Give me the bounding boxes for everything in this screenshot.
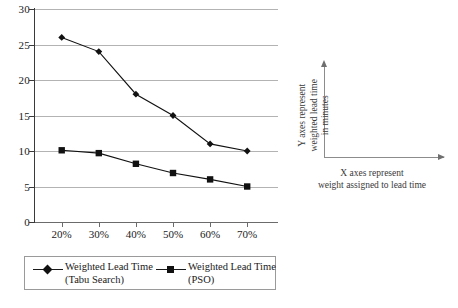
legend-label-line2: (PSO) — [188, 274, 214, 285]
arrow-up-icon — [321, 60, 327, 67]
y-tick-mark — [29, 116, 35, 117]
x-tick-label: 50% — [163, 228, 183, 240]
x-tick-label: 70% — [237, 228, 257, 240]
y-tick-mark — [29, 80, 35, 81]
legend-label-line1: Weighted Lead Time — [65, 261, 153, 272]
chart-legend: Weighted Lead Time (Tabu Search) Weighte… — [24, 256, 276, 290]
y-note-line3: in minutes — [320, 95, 330, 135]
data-point-diamond — [244, 148, 251, 155]
legend-label-tabu-search: Weighted Lead Time (Tabu Search) — [63, 261, 153, 286]
x-axis-line — [34, 222, 278, 223]
mini-axes: Y axes represent weighted lead time in m… — [286, 58, 458, 170]
mini-x-axis-label: X axes represent weight assigned to lead… — [286, 168, 458, 191]
data-point-square — [133, 161, 139, 167]
x-tick-label: 60% — [200, 228, 220, 240]
y-tick-mark — [29, 9, 35, 10]
series-line — [62, 37, 247, 151]
x-tick-mark — [173, 223, 174, 227]
y-note-line1: Y axes represent — [297, 84, 307, 147]
square-marker-icon — [156, 263, 186, 277]
legend-label-line2: (Tabu Search) — [65, 274, 124, 285]
y-tick-mark — [29, 45, 35, 46]
x-tick-label: 20% — [52, 228, 72, 240]
diamond-marker-icon — [33, 263, 63, 277]
x-tick-mark — [210, 223, 211, 227]
y-axis-tick-labels: 051015202530 — [0, 0, 30, 222]
x-note-line2: weight assigned to lead time — [318, 180, 426, 190]
arrow-right-icon — [438, 154, 445, 160]
line-chart-plot: 051015202530 20%30%40%50%60%70% — [0, 0, 278, 248]
data-point-square — [96, 150, 102, 156]
x-tick-mark — [247, 223, 248, 227]
legend-item-tabu-search: Weighted Lead Time (Tabu Search) — [33, 261, 153, 286]
x-note-line1: X axes represent — [340, 168, 403, 178]
y-tick-mark — [29, 222, 35, 223]
mini-x-axis — [324, 157, 444, 158]
data-point-square — [170, 170, 176, 176]
x-tick-mark — [62, 223, 63, 227]
x-tick-label: 40% — [126, 228, 146, 240]
legend-label-pso: Weighted Lead Time (PSO) — [186, 261, 276, 286]
y-tick-mark — [29, 151, 35, 152]
series-line — [62, 150, 247, 186]
chart-figure: 051015202530 20%30%40%50%60%70% Weighted… — [0, 0, 458, 308]
legend-item-pso: Weighted Lead Time (PSO) — [156, 261, 276, 286]
data-point-diamond — [58, 34, 65, 41]
data-point-square — [244, 183, 250, 189]
y-tick-mark — [29, 187, 35, 188]
mini-y-axis-label: Y axes represent weighted lead time in m… — [297, 69, 332, 161]
x-tick-mark — [136, 223, 137, 227]
legend-label-line1: Weighted Lead Time — [188, 261, 276, 272]
axis-explanation-diagram: Y axes represent weighted lead time in m… — [286, 58, 458, 208]
x-tick-mark — [99, 223, 100, 227]
series-layer — [35, 9, 278, 222]
data-point-square — [207, 176, 213, 182]
x-tick-label: 30% — [89, 228, 109, 240]
data-point-square — [59, 147, 65, 153]
y-note-line2: weighted lead time — [308, 79, 318, 151]
